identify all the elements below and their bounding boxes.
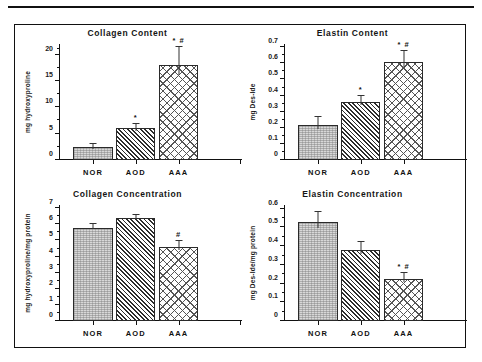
plot-area: mg Des-Ide/mg protein00.10.20.30.40.50.6…	[284, 205, 451, 321]
bar-aod	[116, 128, 155, 160]
panel-collagen-concentration: Collagen Concentrationmg hydroxyproline/…	[15, 186, 240, 347]
y-axis-tick-label: 1	[49, 294, 53, 301]
significance-marker: #	[176, 230, 181, 239]
panel-grid: Collagen Contentmg hydroxyproline0510152…	[15, 25, 465, 347]
y-axis-tick	[55, 320, 59, 321]
error-bar-cap	[314, 116, 321, 117]
y-axis-line	[284, 44, 285, 160]
y-axis-tick	[55, 207, 59, 208]
y-axis-title: mg Des-Ide	[249, 42, 256, 162]
y-axis-tick-label: 0.3	[268, 254, 278, 261]
y-axis-line	[59, 205, 60, 321]
error-bar-cap	[357, 95, 364, 96]
error-bar	[317, 117, 318, 129]
y-axis-tick	[280, 283, 284, 284]
x-axis-label-nor: NOR	[308, 168, 328, 177]
y-axis-tick-label: 0.2	[268, 273, 278, 280]
significance-marker: *	[359, 85, 363, 94]
y-axis-minor-tick	[57, 248, 59, 249]
y-axis-minor-tick	[57, 48, 59, 49]
y-axis-minor-tick	[57, 67, 59, 68]
y-axis-tick-label: 0.6	[268, 198, 278, 205]
y-axis-tick	[55, 106, 59, 107]
y-axis-tick-label: 5	[49, 123, 53, 130]
y-axis-title: mg hydroxyproline/mg protein	[24, 203, 31, 323]
x-axis-end-tick	[465, 160, 466, 164]
error-bar-cap	[89, 223, 96, 224]
y-axis-tick-label: 20	[45, 44, 53, 51]
y-axis-tick	[280, 111, 284, 112]
x-axis-tick	[179, 160, 180, 164]
y-axis-tick	[55, 80, 59, 81]
x-axis-label-aod: AOD	[351, 329, 371, 338]
bar-aod	[341, 102, 380, 160]
significance-marker: *	[134, 113, 138, 122]
y-axis-minor-tick	[282, 87, 284, 88]
bar-aaa	[384, 62, 423, 160]
y-axis-minor-tick	[282, 255, 284, 256]
y-axis-tick-label: 0.6	[268, 53, 278, 60]
x-axis-tick	[179, 321, 180, 325]
error-bar	[403, 273, 404, 282]
y-axis-tick	[55, 223, 59, 224]
bar-aaa	[384, 279, 423, 321]
significance-marker: * #	[398, 262, 410, 271]
y-axis-tick-label: 0.1	[268, 133, 278, 140]
x-axis-label-aaa: AAA	[394, 329, 414, 338]
error-bar-cap	[400, 50, 407, 51]
y-axis-minor-tick	[57, 119, 59, 120]
y-axis-tick	[280, 301, 284, 302]
x-axis-tick	[318, 160, 319, 164]
y-axis-tick-label: 2	[49, 278, 53, 285]
y-axis-tick	[55, 304, 59, 305]
y-axis-tick	[280, 320, 284, 321]
significance-marker: * #	[398, 40, 410, 49]
y-axis-tick-label: 3	[49, 262, 53, 269]
plot-area: mg hydroxyproline/mg protein01234567NORA…	[59, 205, 226, 321]
y-axis-tick	[280, 208, 284, 209]
x-axis-end-tick	[465, 321, 466, 325]
y-axis-tick-label: 4	[49, 246, 53, 253]
bar-nor	[73, 147, 112, 160]
y-axis-tick	[280, 264, 284, 265]
y-axis-minor-tick	[57, 215, 59, 216]
y-axis-tick-label: 0.2	[268, 117, 278, 124]
y-axis-tick	[55, 133, 59, 134]
y-axis-minor-tick	[282, 135, 284, 136]
error-bar	[92, 224, 93, 229]
x-axis-tick	[136, 160, 137, 164]
bar-nor	[298, 222, 337, 321]
x-axis-label-aaa: AAA	[169, 329, 189, 338]
error-bar	[360, 96, 361, 105]
error-bar	[178, 241, 179, 250]
y-axis-title: mg hydroxyproline	[24, 42, 31, 162]
y-axis-minor-tick	[57, 146, 59, 147]
y-axis-tick	[55, 159, 59, 160]
significance-marker: * #	[173, 36, 185, 45]
y-axis-tick	[280, 46, 284, 47]
x-axis-tick	[136, 321, 137, 325]
plot-area: mg hydroxyproline05101520NOR*AOD* #AAA	[59, 44, 226, 160]
x-axis-label-nor: NOR	[83, 168, 103, 177]
error-bar	[178, 47, 179, 75]
y-axis-tick	[280, 95, 284, 96]
error-bar	[135, 124, 136, 131]
error-bar	[403, 51, 404, 67]
y-axis-tick-label: 6	[49, 214, 53, 221]
y-axis-tick	[55, 256, 59, 257]
y-axis-minor-tick	[57, 312, 59, 313]
y-axis-minor-tick	[282, 217, 284, 218]
error-bar	[360, 242, 361, 254]
y-axis-tick-label: 0	[274, 150, 278, 157]
error-bar-cap	[89, 143, 96, 144]
y-axis-minor-tick	[282, 54, 284, 55]
x-axis-tick	[361, 160, 362, 164]
x-axis-label-aod: AOD	[126, 329, 146, 338]
x-axis-tick	[404, 160, 405, 164]
y-axis-tick	[280, 78, 284, 79]
error-bar	[317, 212, 318, 228]
error-bar	[92, 144, 93, 149]
y-axis-tick-label: 0	[49, 311, 53, 318]
x-axis-tick	[404, 321, 405, 325]
x-axis-tick	[93, 321, 94, 325]
